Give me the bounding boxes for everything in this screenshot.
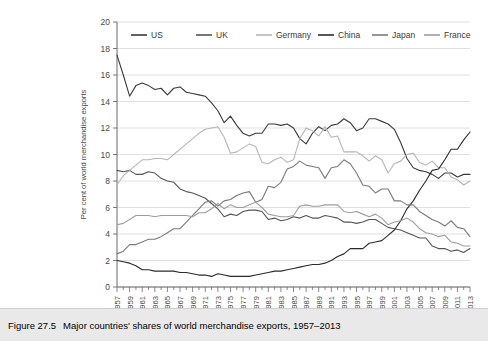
svg-text:14: 14 [101,97,111,107]
svg-text:1963: 1963 [151,296,160,308]
svg-text:Japan: Japan [392,30,415,40]
svg-text:1969: 1969 [189,296,198,308]
svg-text:20: 20 [101,17,111,27]
svg-text:10: 10 [101,150,111,160]
svg-text:1977: 1977 [239,296,248,308]
svg-text:1975: 1975 [226,296,235,308]
svg-text:2003: 2003 [403,296,412,308]
svg-text:2001: 2001 [390,296,399,308]
caption-title: Major countries' shares of world merchan… [63,320,340,331]
svg-text:1965: 1965 [163,296,172,308]
svg-text:8: 8 [105,176,110,186]
svg-text:2013: 2013 [466,296,475,308]
data-series [117,55,470,276]
svg-text:0: 0 [105,282,110,292]
figure-caption: Figure 27.5 Major countries' shares of w… [0,308,488,341]
svg-text:Per cent of world merchandise: Per cent of world merchandise exports [79,90,88,220]
svg-text:Germany: Germany [276,30,312,40]
svg-text:1999: 1999 [378,296,387,308]
svg-text:12: 12 [101,123,111,133]
x-axis-ticks: 1957195919611963196519671969197119731975… [113,287,475,308]
gridlines [117,22,470,287]
caption-figure-number: Figure 27.5 [8,320,56,331]
svg-text:2005: 2005 [416,296,425,308]
svg-text:1991: 1991 [327,296,336,308]
svg-text:1971: 1971 [201,296,210,308]
svg-text:18: 18 [101,44,111,54]
svg-text:6: 6 [105,203,110,213]
svg-text:1995: 1995 [353,296,362,308]
svg-text:1989: 1989 [315,296,324,308]
svg-text:1987: 1987 [302,296,311,308]
svg-text:1973: 1973 [214,296,223,308]
svg-text:1993: 1993 [340,296,349,308]
svg-text:1961: 1961 [138,296,147,308]
svg-text:1983: 1983 [277,296,286,308]
svg-text:2011: 2011 [453,296,462,308]
svg-text:1981: 1981 [264,296,273,308]
chart-legend: USUKGermanyChinaJapanFrance [131,30,471,40]
svg-text:1997: 1997 [365,296,374,308]
svg-text:1957: 1957 [113,296,122,308]
svg-text:France: France [444,30,471,40]
svg-text:2009: 2009 [441,296,450,308]
svg-text:1985: 1985 [290,296,299,308]
svg-text:China: China [338,30,360,40]
y-axis-ticks: 02468101214161820 [101,17,117,292]
svg-text:1979: 1979 [252,296,261,308]
chart-area: 02468101214161820 1957195919611963196519… [0,0,488,308]
svg-text:2: 2 [105,256,110,266]
svg-text:UK: UK [216,30,228,40]
svg-text:1967: 1967 [176,296,185,308]
svg-text:1959: 1959 [126,296,135,308]
caption-inner: Figure 27.5 Major countries' shares of w… [0,320,341,331]
y-axis-label: Per cent of world merchandise exports [79,90,88,220]
svg-text:2007: 2007 [428,296,437,308]
line-chart: 02468101214161820 1957195919611963196519… [0,0,488,308]
svg-text:US: US [151,30,163,40]
svg-text:16: 16 [101,70,111,80]
svg-text:4: 4 [105,229,110,239]
